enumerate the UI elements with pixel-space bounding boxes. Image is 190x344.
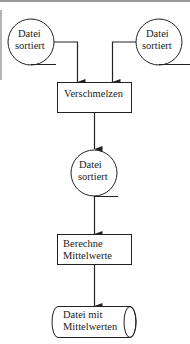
file2-label-line2: sortiert [142,40,172,52]
output-label-line1: Datei mit [63,309,102,321]
merge-label: Verschmelzen [64,88,123,100]
compute-label-line1: Berechne [63,238,103,250]
compute-label-line2: Mittelwerte [63,250,112,262]
file2-label-line1: Datei [146,28,169,40]
file3-label-line2: sortiert [78,171,108,183]
file1-label-line2: sortiert [15,40,45,52]
output-label-line2: Mittelwerten [63,321,117,333]
file3-label-line1: Datei [79,159,102,171]
file1-label-line1: Datei [18,28,41,40]
arrow-file2-to-merge [113,42,137,82]
arrow-file1-to-merge [54,42,78,82]
